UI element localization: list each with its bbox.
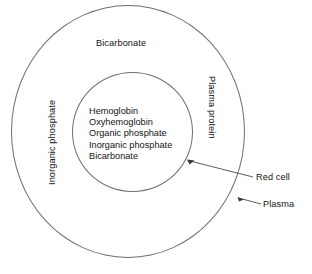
plasma-callout-label: Plasma: [263, 199, 294, 210]
red-cell-leader-line: [188, 161, 253, 178]
buffer-systems-diagram: Bicarbonate Inorganic phosphate Plasma p…: [0, 0, 312, 274]
red-cell-callout-label: Red cell: [256, 172, 290, 183]
callout-leader-lines: [0, 0, 312, 274]
plasma-arrowhead: [238, 197, 245, 202]
